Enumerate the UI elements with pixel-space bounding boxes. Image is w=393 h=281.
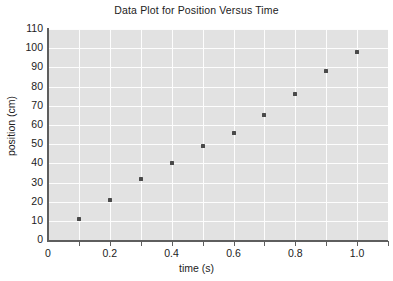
x-tick-label: 1.0 bbox=[337, 247, 377, 259]
gridline-horizontal bbox=[48, 29, 388, 30]
y-tick-label: 0 bbox=[37, 233, 43, 245]
x-tick-mark bbox=[234, 241, 235, 246]
gridline-horizontal bbox=[48, 87, 388, 88]
gridline-vertical bbox=[357, 29, 358, 240]
data-point bbox=[108, 198, 112, 202]
x-tick-mark bbox=[326, 241, 327, 246]
x-tick-mark bbox=[264, 241, 265, 246]
y-tick-label: 60 bbox=[31, 118, 43, 130]
y-tick-label: 50 bbox=[31, 137, 43, 149]
y-tick-label: 20 bbox=[31, 195, 43, 207]
x-axis-line bbox=[47, 240, 388, 242]
data-point bbox=[77, 217, 81, 221]
gridline-horizontal bbox=[48, 221, 388, 222]
gridline-horizontal bbox=[48, 202, 388, 203]
data-point bbox=[355, 50, 359, 54]
data-point bbox=[262, 113, 266, 117]
chart-title: Data Plot for Position Versus Time bbox=[0, 4, 393, 16]
x-tick-mark bbox=[203, 241, 204, 246]
x-tick-mark bbox=[295, 241, 296, 246]
y-tick-label: 30 bbox=[31, 176, 43, 188]
x-tick-label: 0.4 bbox=[152, 247, 192, 259]
data-point bbox=[201, 144, 205, 148]
gridline-vertical bbox=[326, 29, 327, 240]
gridline-vertical bbox=[203, 29, 204, 240]
data-point bbox=[139, 177, 143, 181]
gridline-vertical bbox=[264, 29, 265, 240]
gridline-horizontal bbox=[48, 144, 388, 145]
x-tick-mark bbox=[79, 241, 80, 246]
y-tick-label: 40 bbox=[31, 156, 43, 168]
x-tick-mark bbox=[172, 241, 173, 246]
y-tick-label: 110 bbox=[26, 22, 43, 34]
gridline-vertical bbox=[79, 29, 80, 240]
y-tick-label: 70 bbox=[31, 99, 43, 111]
y-tick-label: 100 bbox=[25, 41, 43, 53]
gridline-horizontal bbox=[48, 163, 388, 164]
gridline-horizontal bbox=[48, 48, 388, 49]
x-tick-mark bbox=[388, 241, 389, 246]
data-point bbox=[324, 69, 328, 73]
x-tick-label: 0.2 bbox=[90, 247, 130, 259]
x-tick-label: 0 bbox=[28, 247, 68, 259]
y-axis-line bbox=[47, 28, 49, 241]
data-point bbox=[170, 161, 174, 165]
gridline-vertical bbox=[172, 29, 173, 240]
y-axis-title: position (cm) bbox=[5, 81, 17, 171]
gridline-horizontal bbox=[48, 106, 388, 107]
gridline-vertical bbox=[110, 29, 111, 240]
x-tick-mark bbox=[110, 241, 111, 246]
x-tick-label: 0.6 bbox=[214, 247, 254, 259]
gridline-horizontal bbox=[48, 183, 388, 184]
x-axis-title: time (s) bbox=[0, 262, 393, 274]
y-tick-label: 10 bbox=[31, 214, 43, 226]
x-tick-label: 0.8 bbox=[275, 247, 315, 259]
gridline-vertical bbox=[141, 29, 142, 240]
gridline-horizontal bbox=[48, 67, 388, 68]
data-point bbox=[293, 92, 297, 96]
y-tick-label: 80 bbox=[31, 80, 43, 92]
plot-area bbox=[48, 29, 388, 240]
gridline-vertical bbox=[295, 29, 296, 240]
x-tick-mark bbox=[357, 241, 358, 246]
gridline-horizontal bbox=[48, 125, 388, 126]
x-tick-mark bbox=[141, 241, 142, 246]
data-point bbox=[232, 131, 236, 135]
y-tick-label: 90 bbox=[31, 60, 43, 72]
chart-figure: Data Plot for Position Versus Time 01020… bbox=[0, 0, 393, 281]
